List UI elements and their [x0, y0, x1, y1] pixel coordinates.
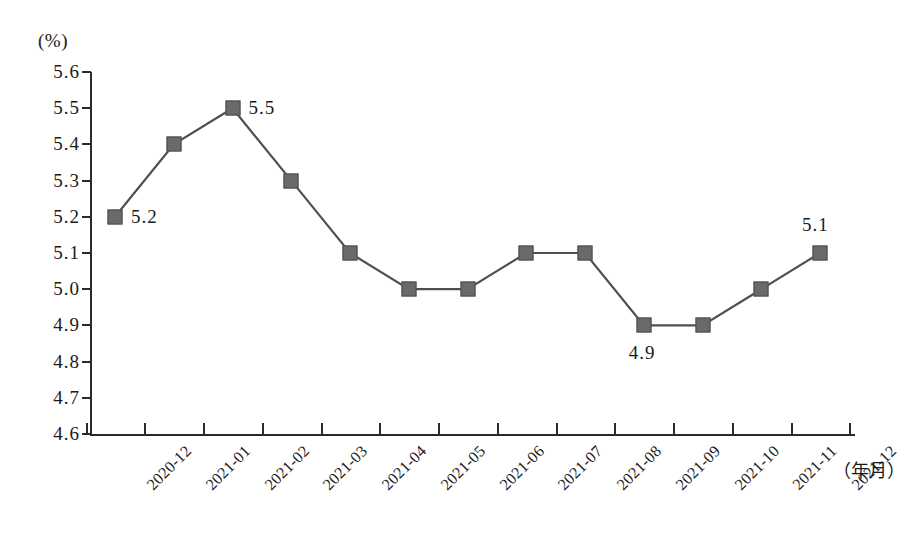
x-axis-tick-label: 2021-10: [731, 442, 783, 494]
x-axis-tick-mark: [614, 423, 616, 435]
x-axis-tick-label: 2021-04: [378, 442, 430, 494]
line-chart: (%) （年月） 5.65.55.45.35.25.15.04.94.84.74…: [0, 0, 919, 537]
data-point-marker: [695, 318, 710, 333]
x-axis-tick-label: 2021-06: [496, 442, 548, 494]
data-point-value-label: 5.2: [131, 206, 158, 228]
y-axis-tick-labels: 5.65.55.45.35.25.15.04.94.84.74.6: [0, 0, 80, 537]
y-axis-tick-mark: [82, 107, 91, 109]
data-point-marker: [166, 137, 181, 152]
y-axis-tick-label: 5.5: [53, 97, 80, 119]
x-axis-tick-mark: [732, 423, 734, 435]
x-axis-tick-mark: [791, 423, 793, 435]
x-axis-tick-mark: [262, 423, 264, 435]
x-axis-tick-label: 2021-01: [202, 442, 254, 494]
x-axis-tick-label: 2021-07: [554, 442, 606, 494]
y-axis-tick-label: 4.6: [53, 423, 80, 445]
data-point-value-label: 5.5: [249, 97, 276, 119]
x-axis-tick-label: 2020-12: [143, 442, 195, 494]
y-axis-tick-label: 4.8: [53, 351, 80, 373]
x-axis-tick-mark: [321, 423, 323, 435]
x-axis-tick-mark: [86, 423, 88, 435]
y-axis-tick-label: 5.2: [53, 206, 80, 228]
x-axis-tick-label: 2021-03: [319, 442, 371, 494]
x-axis-tick-label: 2021-05: [437, 442, 489, 494]
y-axis-tick-mark: [82, 180, 91, 182]
x-axis-tick-mark: [379, 423, 381, 435]
x-axis-tick-mark: [203, 423, 205, 435]
y-axis-tick-label: 4.9: [53, 314, 80, 336]
y-axis-tick-mark: [82, 252, 91, 254]
y-axis-line: [90, 72, 92, 436]
y-axis-tick-mark: [82, 361, 91, 363]
y-axis-tick-mark: [82, 216, 91, 218]
data-point-marker: [636, 318, 651, 333]
y-axis-tick-mark: [82, 71, 91, 73]
data-point-marker: [519, 246, 534, 261]
y-axis-tick-label: 5.4: [53, 133, 80, 155]
data-point-marker: [108, 209, 123, 224]
y-axis-tick-mark: [82, 143, 91, 145]
data-point-marker: [401, 282, 416, 297]
x-axis-tick-mark: [497, 423, 499, 435]
data-point-value-label: 5.1: [802, 214, 829, 236]
data-point-marker: [284, 173, 299, 188]
data-point-marker: [578, 246, 593, 261]
x-axis-tick-mark: [673, 423, 675, 435]
x-axis-tick-label: 2021-09: [672, 442, 724, 494]
x-axis-tick-mark: [849, 423, 851, 435]
data-point-marker: [813, 246, 828, 261]
data-point-marker: [460, 282, 475, 297]
data-point-marker: [225, 101, 240, 116]
y-axis-tick-label: 5.0: [53, 278, 80, 300]
data-point-value-label: 4.9: [629, 342, 656, 364]
y-axis-tick-mark: [82, 397, 91, 399]
y-axis-tick-mark: [82, 324, 91, 326]
y-axis-tick-mark: [82, 288, 91, 290]
y-axis-tick-label: 5.1: [53, 242, 80, 264]
y-axis-tick-label: 5.6: [53, 61, 80, 83]
y-axis-tick-label: 5.3: [53, 170, 80, 192]
data-point-marker: [343, 246, 358, 261]
data-point-marker: [754, 282, 769, 297]
y-axis-tick-label: 4.7: [53, 387, 80, 409]
x-axis-tick-label: 2021-02: [261, 442, 313, 494]
x-axis-tick-mark: [438, 423, 440, 435]
x-axis-tick-label: 2021-08: [613, 442, 665, 494]
x-axis-tick-mark: [556, 423, 558, 435]
x-axis-tick-mark: [144, 423, 146, 435]
